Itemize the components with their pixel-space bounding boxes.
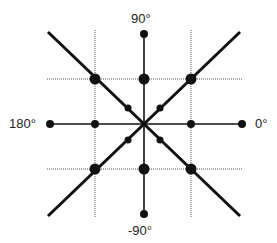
medium-dot	[238, 120, 246, 128]
medium-dot	[91, 120, 99, 128]
large-dot	[139, 74, 150, 85]
small-dot	[125, 105, 132, 112]
medium-dot	[140, 30, 148, 38]
large-dot	[186, 164, 197, 175]
label-0-degrees: 0°	[255, 117, 267, 130]
medium-dot	[46, 120, 54, 128]
large-dot	[90, 74, 101, 85]
label-180-degrees: 180°	[9, 117, 36, 130]
medium-dot	[187, 120, 195, 128]
large-dot	[186, 74, 197, 85]
large-dot	[90, 164, 101, 175]
label-minus-90-degrees: -90°	[128, 224, 152, 237]
medium-dot	[140, 210, 148, 218]
label-90-degrees: 90°	[131, 12, 151, 25]
small-dot	[125, 137, 132, 144]
small-dot	[157, 137, 164, 144]
angle-diagram	[0, 0, 277, 243]
small-dot	[157, 105, 164, 112]
large-dot	[139, 164, 150, 175]
